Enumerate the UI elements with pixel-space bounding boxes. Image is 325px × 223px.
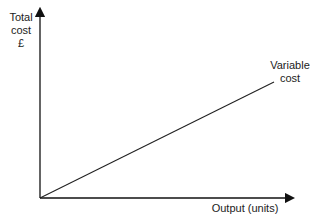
y-axis-label: Total cost £ (6, 11, 36, 50)
y-label-line-3: £ (6, 37, 36, 50)
variable-cost-line (40, 82, 274, 198)
chart-canvas (0, 0, 325, 223)
series-label-line-2: cost (265, 72, 315, 85)
x-axis-label: Output (units) (200, 202, 290, 215)
series-label-variable-cost: Variable cost (265, 59, 315, 85)
y-label-line-1: Total (6, 11, 36, 24)
series-label-line-1: Variable (265, 59, 315, 72)
y-label-line-2: cost (6, 24, 36, 37)
